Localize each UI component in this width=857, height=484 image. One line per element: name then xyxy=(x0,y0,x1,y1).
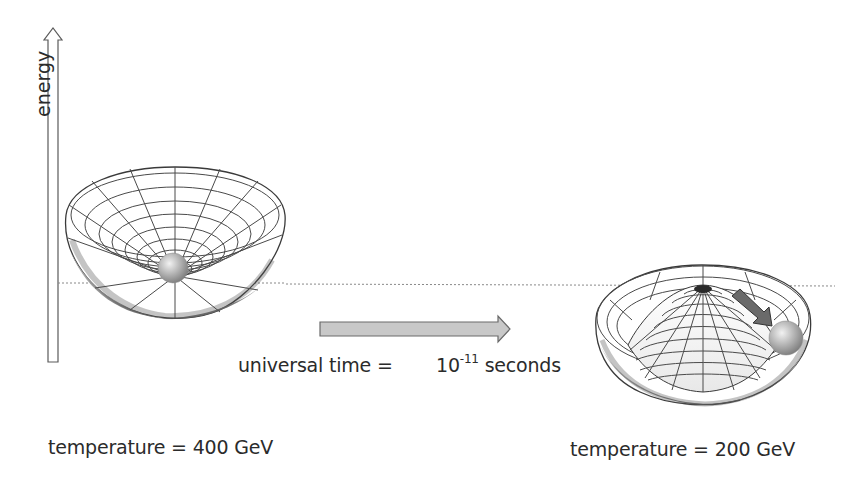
diagram-canvas xyxy=(0,0,857,484)
symmetric-potential-bowl xyxy=(66,167,286,319)
energy-axis-label: energy xyxy=(32,57,56,117)
temperature-label-left: temperature = 400 GeV xyxy=(48,436,273,458)
ball-in-trough xyxy=(769,321,803,355)
time-progress-arrow xyxy=(320,316,510,342)
time-unit: seconds xyxy=(485,354,561,376)
ball-at-minimum xyxy=(158,253,188,283)
time-exponent: -11 xyxy=(460,352,479,366)
time-value: 10-11 seconds xyxy=(436,354,561,376)
time-base: 10 xyxy=(436,354,460,376)
mexican-hat-potential xyxy=(596,265,811,405)
time-label: universal time = xyxy=(238,354,393,376)
temperature-label-right: temperature = 200 GeV xyxy=(570,438,795,460)
